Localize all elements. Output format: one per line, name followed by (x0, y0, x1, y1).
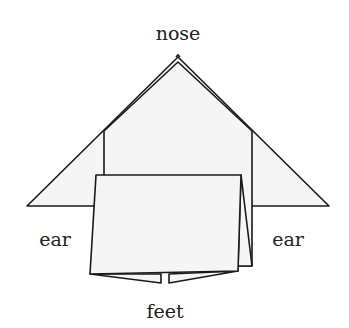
front-card (90, 175, 241, 274)
nose-label: nose (156, 22, 201, 44)
feet-label: feet (146, 300, 184, 322)
ear-left-label: ear (39, 228, 72, 250)
left-foot (90, 274, 161, 283)
origami-diagram: nose ear ear feet (0, 0, 349, 328)
ear-right-label: ear (272, 228, 305, 250)
